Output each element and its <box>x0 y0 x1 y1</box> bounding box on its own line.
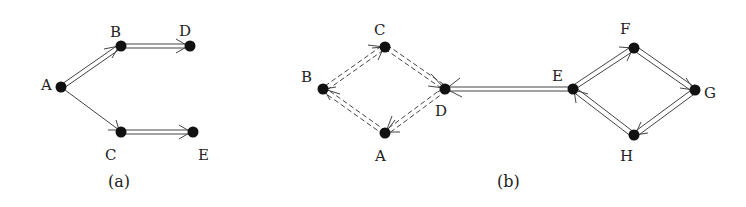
edge-a-C-E <box>121 125 191 139</box>
caption-b: (b) <box>497 172 520 191</box>
graph-figure: A B D C E (a) <box>0 0 746 207</box>
edge-b-E-D <box>445 87 573 91</box>
node-b-C <box>380 42 391 53</box>
label-b-G: G <box>704 84 716 102</box>
node-b-F <box>629 43 640 54</box>
label-a-A: A <box>40 76 52 94</box>
label-b-D: D <box>435 102 447 120</box>
label-b-H: H <box>620 147 633 165</box>
edge-b-E-F <box>572 46 635 90</box>
label-b-B: B <box>301 68 312 86</box>
edge-b-C-D <box>385 45 446 90</box>
node-b-E <box>568 84 579 95</box>
caption-a: (a) <box>108 172 130 191</box>
edge-b-H-E <box>572 87 635 137</box>
node-b-A <box>380 128 391 139</box>
label-b-C: C <box>374 21 385 39</box>
node-a-D <box>185 41 196 52</box>
node-b-G <box>690 85 701 96</box>
node-a-C <box>116 127 127 138</box>
node-b-H <box>629 130 640 141</box>
edge-b-B-C <box>325 45 385 90</box>
label-b-F: F <box>620 20 630 38</box>
panel-b: C B D A E F G H (b) <box>301 20 716 191</box>
edge-b-F-G <box>633 46 696 92</box>
node-a-B <box>116 41 127 52</box>
node-b-D <box>440 84 451 95</box>
label-a-B: B <box>110 23 121 41</box>
node-a-A <box>56 82 67 93</box>
edge-a-B-D <box>121 39 188 53</box>
edge-b-G-H <box>633 88 697 137</box>
panel-a: A B D C E (a) <box>40 22 209 191</box>
edge-a-A-C <box>61 87 119 130</box>
label-a-E: E <box>198 146 209 164</box>
label-a-D: D <box>179 22 191 40</box>
node-a-E <box>188 127 199 138</box>
node-b-B <box>318 84 329 95</box>
edge-b-A-B <box>322 87 386 135</box>
label-a-C: C <box>105 146 116 164</box>
label-b-E: E <box>552 67 563 85</box>
label-b-A: A <box>374 147 386 165</box>
edge-a-A-B <box>62 45 120 88</box>
